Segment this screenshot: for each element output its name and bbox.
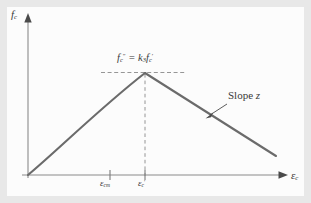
y-axis-label-subscript: c [14, 13, 17, 20]
x-axis-label: εc [291, 170, 298, 182]
tick-label-1-superscript: ′ [144, 179, 145, 185]
ascending-branch-curve [28, 73, 145, 175]
x-tick-label-peak-strain: εc′ [138, 179, 145, 189]
x-axis-label-subscript: c [295, 174, 298, 181]
y-axis-label: fc [11, 9, 17, 21]
equation-rhs-superscript: ′ [152, 52, 154, 59]
stress-strain-figure: fc εc fc″ = k3fc′ εcm εc′ Slope z [0, 0, 311, 203]
y-axis-arrowhead [24, 13, 31, 23]
peak-stress-equation: fc″ = k3fc′ [117, 53, 153, 64]
x-axis-arrowhead [279, 171, 289, 178]
slope-annotation-text: Slope [228, 89, 256, 101]
tick-label-0-subscript: cm [104, 182, 111, 188]
slope-annotation-variable: z [256, 89, 260, 101]
equation-equals-sign: = [126, 52, 138, 63]
plot-area [0, 0, 311, 203]
x-tick-label-strain-cm: εcm [100, 179, 110, 189]
slope-annotation: Slope z [228, 90, 260, 101]
